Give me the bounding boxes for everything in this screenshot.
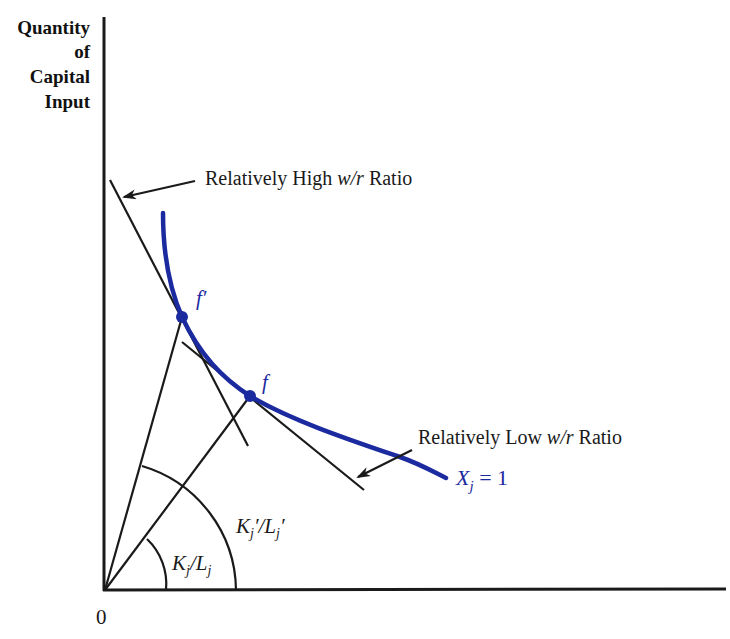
angle-label-small: Kj/Lj — [171, 551, 211, 578]
ray-to-f-prime — [105, 317, 182, 590]
svg-text:Input: Input — [45, 91, 91, 112]
svg-text:Capital: Capital — [30, 66, 90, 87]
isoquant-label: Xj = 1 — [455, 465, 508, 494]
origin-label: 0 — [96, 605, 107, 629]
point-f — [244, 390, 256, 402]
low-ratio-isocost-line — [182, 342, 364, 490]
angle-arc-small — [147, 539, 166, 590]
label-f-prime: f′ — [196, 286, 207, 310]
high-ratio-arrow — [124, 181, 195, 197]
low-ratio-label: Relatively Low w/r Ratio — [418, 426, 622, 449]
high-ratio-label: Relatively High w/r Ratio — [205, 167, 412, 190]
x-axis — [103, 589, 726, 590]
svg-text:Quantity: Quantity — [17, 17, 90, 38]
point-f-prime — [176, 311, 188, 323]
isoquant-diagram: Quantity of Capital Input 0 f′ f Relativ… — [0, 0, 730, 639]
y-axis-label: Quantity of Capital Input — [17, 17, 91, 112]
svg-text:of: of — [74, 41, 91, 62]
label-f: f — [262, 370, 271, 394]
isoquant-curve — [163, 213, 446, 478]
angle-label-large: Kj′/Lj′ — [235, 514, 285, 541]
